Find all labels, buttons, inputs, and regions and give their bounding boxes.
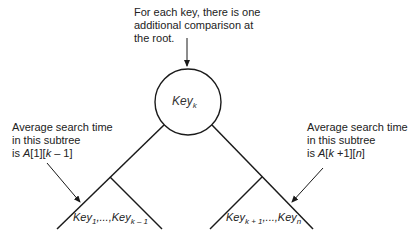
- text: is: [307, 147, 318, 159]
- right-annotation: Average search time in this subtree is A…: [307, 121, 408, 160]
- text: ,...,: [96, 211, 111, 223]
- subscript: k – 1: [131, 217, 148, 226]
- top-note-line: additional comparison at: [134, 19, 260, 32]
- text: – 1]: [51, 147, 72, 159]
- text: ,...,: [263, 211, 278, 223]
- right-annotation-line1: Average search time: [307, 121, 408, 134]
- top-note: For each key, there is one additional co…: [134, 6, 260, 45]
- text: +1][: [334, 147, 356, 159]
- left-subtree-label: Key1,...,Keyk – 1: [73, 211, 148, 226]
- left-annotation-arrow: [47, 163, 80, 202]
- root-node-label: Keyk: [172, 94, 197, 110]
- root-key-text: Key: [172, 94, 193, 108]
- right-annotation-line3: is A[k +1][n]: [307, 147, 408, 160]
- left-annotation-line3: is A[1][k – 1]: [12, 147, 113, 160]
- right-annotation-line2: in this subtree: [307, 134, 408, 147]
- left-annotation: Average search time in this subtree is A…: [12, 121, 113, 160]
- text: [1][: [30, 147, 45, 159]
- top-note-line: the root.: [134, 32, 260, 45]
- text: Key: [278, 211, 297, 223]
- right-annotation-arrow: [292, 168, 323, 202]
- right-subtree-label: Keyk + 1,...,Keyn: [226, 211, 301, 226]
- left-annotation-line2: in this subtree: [12, 134, 113, 147]
- subscript: n: [297, 217, 301, 226]
- text: Key: [226, 211, 245, 223]
- root-key-subscript: k: [193, 101, 197, 110]
- text: ]: [362, 147, 365, 159]
- text: Key: [112, 211, 131, 223]
- subscript: k + 1: [245, 217, 263, 226]
- top-note-line: For each key, there is one: [134, 6, 260, 19]
- text: Key: [73, 211, 92, 223]
- left-annotation-line1: Average search time: [12, 121, 113, 134]
- text: is: [12, 147, 23, 159]
